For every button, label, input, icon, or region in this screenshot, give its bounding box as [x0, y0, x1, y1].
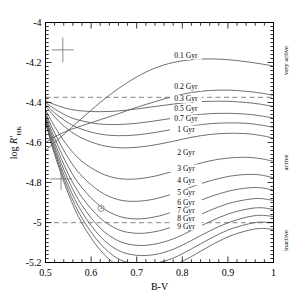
y-tick-label: -5.2: [26, 257, 42, 268]
sun-marker-dot: [100, 208, 102, 210]
x-tick-label: 0.8: [176, 267, 189, 278]
isochrone-activity-plot: 0.1 Gyr0.2 Gyr0.3 Gyr0.5 Gyr0.7 Gyr1 Gyr…: [0, 0, 296, 298]
curve-0-2-gyr: [46, 90, 274, 142]
curve-7-gyr: [46, 120, 274, 256]
x-tick-label: 0.9: [222, 267, 235, 278]
y-tick-label: -4.2: [26, 57, 42, 68]
curve-0-3-gyr: [46, 101, 274, 112]
curve-label-9-gyr: 9 Gyr: [177, 222, 195, 231]
x-tick-label: 0.6: [85, 267, 98, 278]
y-axis-label: log R'HK: [8, 126, 23, 160]
svg-text:inactive: inactive: [282, 230, 289, 251]
curve-label-1-gyr: 1 Gyr: [177, 125, 195, 134]
curve-label-0-3-gyr: 0.3 Gyr: [174, 94, 198, 103]
curve-label-0-2-gyr: 0.2 Gyr: [174, 82, 198, 91]
svg-text:very active: very active: [282, 46, 289, 75]
x-tick-label: 1: [271, 267, 276, 278]
curve-3-gyr: [46, 113, 274, 202]
error-bar-upper: [52, 38, 74, 63]
regime-label-active: active: [282, 155, 289, 171]
y-tick-label: -4.4: [26, 97, 42, 108]
x-tick-label: 0.7: [130, 267, 143, 278]
y-tick-label: -4: [33, 17, 41, 28]
curve-label-3-gyr: 3 Gyr: [177, 164, 195, 173]
curve-label-5-gyr: 5 Gyr: [177, 188, 195, 197]
curve-label-0-1-gyr: 0.1 Gyr: [174, 51, 198, 60]
curve-label-0-7-gyr: 0.7 Gyr: [174, 114, 198, 123]
y-tick-label: -4.6: [26, 137, 42, 148]
y-tick-label: -5: [33, 217, 41, 228]
regime-label-very-active: very active: [282, 46, 289, 75]
regime-label-inactive: inactive: [282, 230, 289, 251]
y-tick-label: -4.8: [26, 177, 42, 188]
curve-label-2-gyr: 2 Gyr: [177, 148, 195, 157]
svg-text:active: active: [282, 155, 289, 171]
svg-text:log R'HK: log R'HK: [8, 126, 23, 160]
chart-figure: 0.1 Gyr0.2 Gyr0.3 Gyr0.5 Gyr0.7 Gyr1 Gyr…: [0, 0, 296, 298]
x-axis-label: B-V: [151, 281, 169, 292]
curve-label-4-gyr: 4 Gyr: [177, 176, 195, 185]
plot-content: 0.1 Gyr0.2 Gyr0.3 Gyr0.5 Gyr0.7 Gyr1 Gyr…: [46, 38, 274, 273]
curve-label-0-5-gyr: 0.5 Gyr: [174, 104, 198, 113]
x-tick-label: 0.5: [39, 267, 52, 278]
curve-4-gyr: [46, 115, 274, 219]
